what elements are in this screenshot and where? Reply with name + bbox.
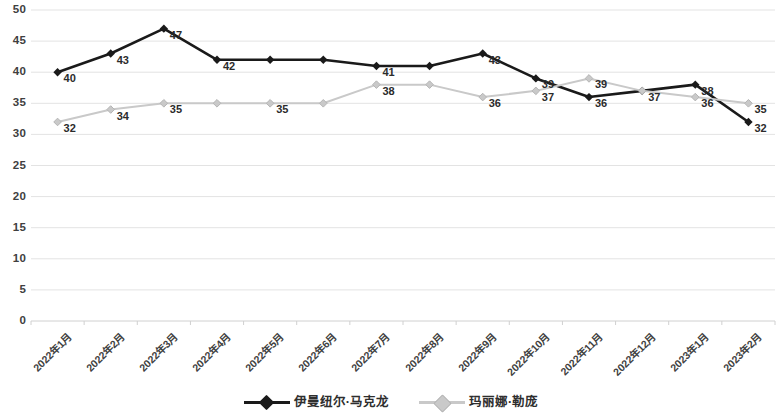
data-point-label: 38 <box>701 85 713 97</box>
data-point-label: 39 <box>542 78 554 90</box>
data-point-marker <box>54 118 62 126</box>
data-point-label: 35 <box>754 103 766 115</box>
gridlines <box>31 10 775 290</box>
data-point-label: 43 <box>489 54 501 66</box>
data-point-label: 39 <box>595 78 607 90</box>
series-line-2 <box>58 78 749 122</box>
data-point-marker <box>425 62 433 70</box>
data-point-marker <box>585 75 593 83</box>
data-point-marker <box>426 81 434 89</box>
data-point-label: 42 <box>223 60 235 72</box>
data-point-label: 34 <box>117 110 130 122</box>
data-point-marker <box>532 74 540 82</box>
legend-swatch-icon-2 <box>419 396 465 408</box>
data-point-marker <box>319 56 327 64</box>
data-point-marker <box>638 87 646 95</box>
data-point-marker <box>745 100 753 108</box>
series-line-1 <box>58 29 749 122</box>
data-point-label: 37 <box>542 91 554 103</box>
legend-item-macron[interactable]: 伊曼纽尔·马克龙 <box>244 396 389 409</box>
data-point-label: 32 <box>754 122 766 134</box>
data-point-label: 32 <box>64 122 76 134</box>
data-point-marker <box>319 100 327 108</box>
legend-swatch-icon-1 <box>244 396 290 408</box>
data-point-label: 35 <box>276 103 288 115</box>
plot-area: 4043474241433936373832323435353836373936… <box>0 0 782 420</box>
data-point-marker <box>373 81 381 89</box>
data-point-label: 36 <box>595 97 607 109</box>
data-point-marker <box>532 87 540 95</box>
data-point-label: 43 <box>117 54 129 66</box>
data-point-label: 36 <box>701 97 713 109</box>
legend-item-lepen[interactable]: 玛丽娜·勒庞 <box>419 396 538 409</box>
data-point-marker <box>479 93 487 101</box>
data-point-marker <box>691 93 699 101</box>
x-axis-tick-marks <box>31 321 775 325</box>
chart-legend: 伊曼纽尔·马克龙 玛丽娜·勒庞 <box>0 396 782 409</box>
data-point-label: 35 <box>170 103 182 115</box>
data-point-label: 41 <box>382 66 394 78</box>
data-point-marker <box>107 49 115 57</box>
data-point-marker <box>266 56 274 64</box>
data-point-marker <box>479 49 487 57</box>
data-point-marker <box>372 62 380 70</box>
data-point-label: 47 <box>170 29 182 41</box>
data-point-label: 38 <box>382 85 394 97</box>
line-chart: 05101520253035404550 4043474241433936373… <box>0 0 782 420</box>
data-point-marker <box>107 106 115 114</box>
legend-label-2: 玛丽娜·勒庞 <box>469 396 538 409</box>
series-layer <box>53 24 752 126</box>
legend-label-1: 伊曼纽尔·马克龙 <box>294 396 389 409</box>
data-point-marker <box>585 93 593 101</box>
data-point-marker <box>160 100 168 108</box>
data-point-label: 36 <box>489 97 501 109</box>
data-point-label: 40 <box>64 72 76 84</box>
data-point-marker <box>53 68 61 76</box>
point-labels-layer: 4043474241433936373832323435353836373936… <box>64 29 767 134</box>
data-point-label: 37 <box>648 91 660 103</box>
data-point-marker <box>266 100 274 108</box>
data-point-marker <box>213 100 221 108</box>
